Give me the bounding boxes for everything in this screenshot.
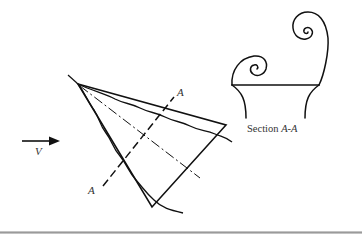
upper-vortex-line [78,84,232,142]
section-marker-top: A [176,86,184,98]
velocity-label: V [35,145,43,157]
section-caption: Section A-A [247,123,298,134]
section-a-a-drawing [232,12,328,118]
wing-planform [78,84,226,207]
section-marker-bottom: A [87,184,95,196]
centerline [80,86,200,178]
apex-extension-line [68,75,78,84]
wedge-vortex-diagram: V A A Section A-A [0,0,362,235]
section-line-a-a [103,97,174,186]
bottom-divider [0,231,362,234]
